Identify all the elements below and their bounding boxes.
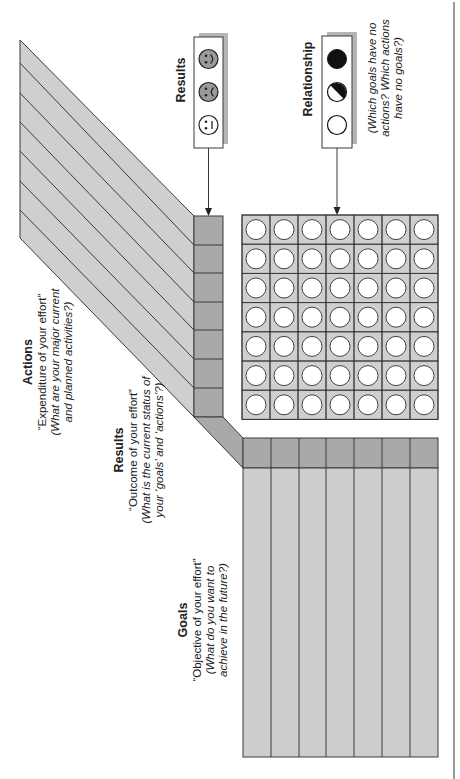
empty-circle-icon bbox=[414, 249, 434, 269]
empty-circle-icon bbox=[302, 278, 322, 298]
empty-circle-icon bbox=[246, 336, 266, 356]
empty-circle-icon bbox=[330, 220, 350, 240]
relationship-legend bbox=[322, 32, 357, 215]
actions-header-column bbox=[194, 216, 223, 417]
empty-circle-icon bbox=[330, 366, 350, 386]
empty-circle-icon bbox=[414, 395, 434, 415]
relationship-legend-title: Relationship bbox=[301, 24, 316, 134]
results-title: Results bbox=[112, 350, 127, 550]
empty-circle-icon bbox=[386, 220, 406, 240]
empty-circle-icon bbox=[274, 336, 294, 356]
actions-title: Actions bbox=[21, 262, 36, 462]
empty-circle-icon bbox=[274, 278, 294, 298]
empty-circle-icon bbox=[358, 220, 378, 240]
empty-circle-icon bbox=[386, 278, 406, 298]
empty-circle-icon bbox=[302, 336, 322, 356]
empty-circle-icon bbox=[414, 366, 434, 386]
empty-circle-icon bbox=[274, 249, 294, 269]
filled-circle-icon bbox=[328, 50, 347, 69]
results-label: Results “Outcome of your effort” (What i… bbox=[112, 350, 166, 550]
actions-question-2: and planned activities?) bbox=[62, 262, 75, 462]
goals-label: Goals “Objective of your effort” (What d… bbox=[176, 520, 230, 720]
empty-circle-icon bbox=[358, 249, 378, 269]
relationship-matrix bbox=[242, 215, 438, 419]
goals-title: Goals bbox=[176, 520, 191, 720]
empty-circle-icon bbox=[274, 220, 294, 240]
empty-circle-icon bbox=[386, 307, 406, 327]
empty-circle-icon bbox=[302, 366, 322, 386]
half-filled-circle-icon bbox=[328, 83, 347, 102]
empty-circle-icon bbox=[358, 336, 378, 356]
goals-columns bbox=[243, 438, 438, 757]
results-subtitle: “Outcome of your effort” bbox=[127, 350, 140, 550]
empty-circle-icon bbox=[386, 395, 406, 415]
empty-circle-icon bbox=[414, 220, 434, 240]
goals-question-2: achieve in the future?) bbox=[217, 520, 230, 720]
empty-circle-icon bbox=[302, 307, 322, 327]
actions-label: Actions “Expenditure of your effort” (Wh… bbox=[21, 262, 75, 462]
sad-face-icon bbox=[199, 83, 218, 102]
empty-circle-icon bbox=[386, 336, 406, 356]
empty-circle-icon bbox=[330, 395, 350, 415]
goals-subtitle: “Objective of your effort” bbox=[191, 520, 204, 720]
empty-circle-icon bbox=[414, 307, 434, 327]
empty-circle-icon bbox=[414, 336, 434, 356]
neutral-face-icon bbox=[199, 116, 218, 135]
empty-circle-icon bbox=[246, 307, 266, 327]
empty-circle-icon bbox=[386, 366, 406, 386]
empty-circle-icon bbox=[302, 395, 322, 415]
empty-circle-icon bbox=[302, 249, 322, 269]
happy-face-icon bbox=[199, 50, 218, 69]
goals-header-row bbox=[243, 438, 438, 468]
results-question-1: (What is the current status of bbox=[140, 350, 153, 550]
empty-circle-icon bbox=[274, 307, 294, 327]
empty-circle-icon bbox=[386, 249, 406, 269]
empty-circle-icon bbox=[274, 366, 294, 386]
empty-circle-icon bbox=[358, 278, 378, 298]
results-legend-title: Results bbox=[174, 40, 189, 120]
empty-circle-icon bbox=[414, 278, 434, 298]
relationship-question: (Which goals have no actions? Which acti… bbox=[366, 0, 405, 158]
empty-circle-icon bbox=[330, 278, 350, 298]
results-question-2: your ‘goals’ and ‘actions’?) bbox=[153, 350, 166, 550]
empty-circle-icon bbox=[328, 116, 347, 135]
actions-question-1: (What are your major current bbox=[49, 262, 62, 462]
empty-circle-icon bbox=[246, 220, 266, 240]
results-connector bbox=[194, 417, 243, 468]
empty-circle-icon bbox=[246, 395, 266, 415]
empty-circle-icon bbox=[330, 307, 350, 327]
empty-circle-icon bbox=[358, 307, 378, 327]
goals-question-1: (What do you want to bbox=[204, 520, 217, 720]
empty-circle-icon bbox=[358, 395, 378, 415]
empty-circle-icon bbox=[246, 366, 266, 386]
empty-circle-icon bbox=[330, 249, 350, 269]
empty-circle-icon bbox=[358, 366, 378, 386]
actions-subtitle: “Expenditure of your effort” bbox=[36, 262, 49, 462]
empty-circle-icon bbox=[246, 278, 266, 298]
empty-circle-icon bbox=[274, 395, 294, 415]
empty-circle-icon bbox=[302, 220, 322, 240]
empty-circle-icon bbox=[330, 336, 350, 356]
results-legend bbox=[194, 33, 228, 216]
empty-circle-icon bbox=[246, 249, 266, 269]
